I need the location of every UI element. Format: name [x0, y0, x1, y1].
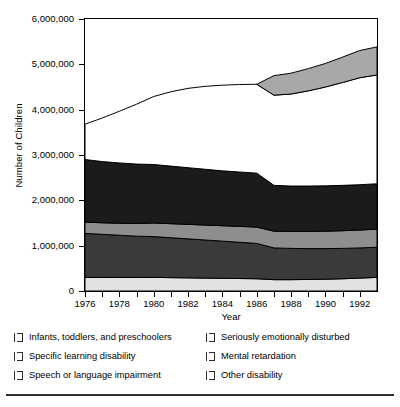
chart-area: Number of Children 01,000,0002,000,0003,…	[0, 0, 400, 330]
x-axis-tick-mark	[205, 292, 206, 297]
y-axis-tick-label: 1,000,000	[10, 241, 74, 251]
legend-swatch	[14, 333, 23, 342]
legend-swatch	[14, 352, 23, 361]
y-axis-tick-label: 3,000,000	[10, 150, 74, 160]
x-axis-tick-mark	[102, 292, 103, 297]
x-axis-tick-mark	[222, 292, 223, 297]
x-axis-tick-mark	[343, 292, 344, 297]
x-axis-tick-mark	[274, 292, 275, 297]
legend-swatch	[206, 371, 215, 380]
legend-swatch-fill	[207, 352, 209, 364]
x-axis-tick-mark	[291, 292, 292, 297]
y-axis-title: Number of Children	[13, 81, 24, 211]
legend-swatch-fill	[207, 333, 209, 345]
x-axis-tick-mark	[154, 292, 155, 297]
legend-item[interactable]: Infants, toddlers, and preschoolers	[14, 332, 172, 342]
x-axis-tick-mark	[308, 292, 309, 297]
x-axis-tick-mark	[257, 292, 258, 297]
legend-label: Mental retardation	[221, 351, 296, 361]
bottom-divider	[6, 394, 394, 396]
legend-label: Other disability	[221, 370, 283, 380]
legend-item[interactable]: Other disability	[206, 370, 283, 380]
legend-item[interactable]: Specific learning disability	[14, 351, 135, 361]
legend-swatch	[206, 333, 215, 342]
legend-label: Specific learning disability	[29, 351, 135, 361]
x-axis-tick-mark	[85, 292, 86, 297]
y-axis-tick-label: 6,000,000	[10, 14, 74, 24]
plot-area	[84, 18, 378, 292]
stacked-area-series	[85, 19, 377, 291]
y-axis-tick-label: 5,000,000	[10, 59, 74, 69]
legend-swatch-fill	[15, 333, 17, 345]
legend: Infants, toddlers, and preschoolersSpeci…	[0, 332, 400, 390]
legend-swatch	[206, 352, 215, 361]
legend-swatch-fill	[15, 352, 17, 364]
legend-label: Speech or language impairment	[29, 370, 161, 380]
y-axis-tick-label: 2,000,000	[10, 195, 74, 205]
x-axis-tick-mark	[325, 292, 326, 297]
x-axis-tick-mark	[137, 292, 138, 297]
legend-swatch-fill	[15, 371, 17, 383]
figure: Number of Children 01,000,0002,000,0003,…	[0, 0, 400, 407]
x-axis-tick-mark	[171, 292, 172, 297]
x-axis-tick-mark	[188, 292, 189, 297]
legend-item[interactable]: Speech or language impairment	[14, 370, 161, 380]
x-axis-title: Year	[84, 311, 378, 322]
legend-item[interactable]: Mental retardation	[206, 351, 296, 361]
x-axis-tick-mark	[240, 292, 241, 297]
y-axis-tick-label: 0	[10, 286, 74, 296]
legend-item[interactable]: Seriously emotionally disturbed	[206, 332, 350, 342]
x-axis-tick-mark	[360, 292, 361, 297]
y-axis-tick-label: 4,000,000	[10, 105, 74, 115]
legend-label: Infants, toddlers, and preschoolers	[29, 332, 172, 342]
x-axis-tick-label: 1992	[340, 299, 380, 309]
legend-swatch	[14, 371, 23, 380]
legend-label: Seriously emotionally disturbed	[221, 332, 350, 342]
x-axis-tick-mark	[119, 292, 120, 297]
legend-swatch-fill	[207, 371, 209, 383]
